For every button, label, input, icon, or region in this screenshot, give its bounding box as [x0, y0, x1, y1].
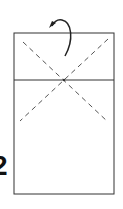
origami-diagram	[0, 0, 123, 209]
intersection-point	[63, 79, 65, 81]
paper-sheet	[14, 33, 114, 194]
step-number: 2	[0, 152, 8, 180]
